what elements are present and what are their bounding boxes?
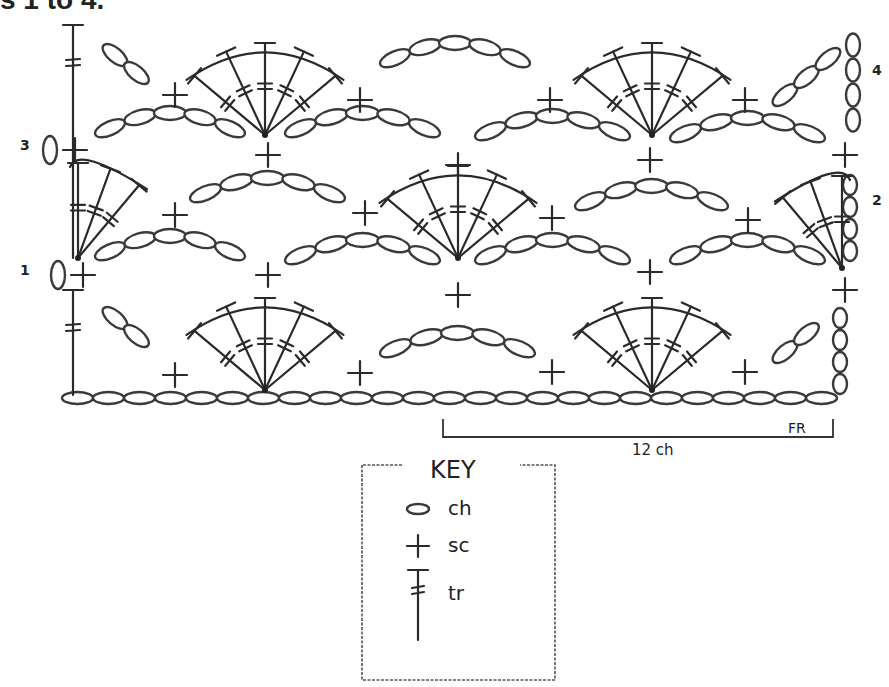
chain-stitch-icon: [731, 233, 764, 247]
key-title: KEY: [430, 456, 476, 484]
chain-stitch-icon: [536, 233, 569, 247]
single-crochet-icon: [638, 148, 662, 172]
chain-stitch-icon: [668, 120, 704, 146]
single-crochet-icon: [163, 203, 187, 227]
chain-stitch-icon: [775, 392, 806, 404]
single-crochet-icon: [638, 260, 662, 284]
chain-stitch-icon: [846, 34, 860, 57]
chain-stitch-icon: [407, 115, 443, 141]
chain-stitch-icon: [310, 392, 341, 404]
chain-stitch-icon: [441, 326, 474, 340]
single-crochet-icon: [256, 143, 280, 167]
single-crochet-icon: [446, 153, 470, 177]
key-legend: KEY ch sc tr: [362, 456, 555, 680]
chain-stitch-icon: [792, 120, 828, 146]
single-crochet-icon: [348, 361, 372, 385]
single-crochet-icon: [833, 143, 857, 167]
chain-stitch-icon: [635, 179, 668, 193]
chain-stitch-icon: [699, 233, 734, 255]
chain-stitch-icon: [183, 106, 218, 128]
chain-stitch-icon: [833, 374, 847, 394]
chain-stitch-icon: [93, 115, 128, 141]
chain-stitch-icon: [833, 330, 847, 350]
chain-stitch-icon: [792, 242, 828, 268]
chain-stitch-icon: [408, 36, 443, 58]
chain-stitch-icon: [761, 111, 796, 133]
chain-stitch-icon: [314, 106, 349, 128]
single-crochet-icon: [163, 363, 187, 387]
treble-fan: [574, 298, 731, 393]
chain-stitch-icon: [597, 118, 633, 144]
chain-stitch-icon: [346, 233, 379, 247]
chain-stitch-icon: [403, 392, 434, 404]
chain-stitch-icon: [833, 308, 847, 328]
chain-stitch-icon: [123, 106, 158, 128]
chain-stitch-icon: [279, 392, 310, 404]
row-number-label: 1: [20, 262, 30, 278]
chain-stitch-icon: [806, 392, 837, 404]
chain-stitch-icon: [434, 392, 465, 404]
chain-stitch-icon: [713, 392, 744, 404]
crochet-chart: s 1 to 4. 1234 12 ch FR KEY ch sc: [0, 0, 889, 687]
treble-post-icon: [63, 25, 83, 135]
chain-stitch-icon: [312, 180, 348, 206]
chain-stitch-icon: [504, 233, 539, 255]
chain-stitch-icon: [213, 238, 248, 264]
chain-stitch-icon: [695, 188, 730, 214]
chain-stitch-icon: [566, 109, 601, 131]
key-chain-symbol-icon: [407, 504, 429, 514]
chain-stitch-icon: [124, 392, 155, 404]
chain-stitch-icon: [213, 115, 248, 141]
treble-post-icon: [63, 290, 83, 395]
chain-stitch-icon: [566, 233, 601, 255]
chain-stitch-icon: [43, 136, 57, 164]
chain-stitch-icon: [465, 392, 496, 404]
single-crochet-icon: [733, 88, 757, 112]
chain-stitch-icon: [183, 229, 218, 251]
chain-stitch-icon: [62, 392, 93, 404]
chain-stitch-icon: [314, 233, 349, 255]
chain-stitch-icon: [251, 171, 284, 185]
key-label-ch: ch: [448, 496, 472, 520]
chain-stitch-icon: [527, 392, 558, 404]
chain-stitch-icon: [846, 109, 860, 132]
chain-stitch-icon: [155, 392, 186, 404]
chain-stitch-icon: [341, 392, 372, 404]
chain-stitch-icon: [283, 115, 319, 141]
chain-stitch-icon: [219, 171, 254, 193]
chain-stitch-icon: [536, 109, 569, 123]
chain-stitch-icon: [668, 242, 704, 268]
chain-stitch-icon: [620, 392, 651, 404]
single-crochet-icon: [446, 283, 470, 307]
chain-stitch-icon: [846, 59, 860, 82]
chain-stitch-icon: [468, 36, 503, 58]
chain-stitch-icon: [120, 321, 152, 351]
chain-stitch-icon: [846, 84, 860, 107]
chain-stitch-icon: [471, 326, 506, 348]
chain-stitch-icon: [573, 188, 608, 214]
chain-stitch-icon: [154, 106, 186, 120]
single-crochet-icon: [163, 83, 187, 107]
row-number-label: 4: [872, 62, 882, 78]
chain-stitch-icon: [665, 179, 700, 201]
chain-stitch-icon: [597, 242, 633, 268]
chain-stitch-icon: [502, 335, 538, 361]
chain-stitch-icon: [154, 229, 186, 243]
chain-stitch-icon: [812, 44, 844, 74]
single-crochet-icon: [733, 360, 757, 384]
chain-stitch-icon: [346, 106, 379, 120]
key-sc-symbol-icon: [407, 535, 429, 557]
single-crochet-icon: [540, 206, 564, 230]
treble-fan: [187, 298, 344, 393]
chain-stitch-icon: [93, 238, 128, 264]
single-crochet-icon: [256, 263, 280, 287]
chain-stitch-icon: [589, 392, 620, 404]
single-crochet-icon: [71, 263, 95, 287]
chain-stitch-icon: [283, 242, 319, 268]
chain-stitch-icon: [120, 58, 152, 88]
foundation-chain: [62, 392, 837, 404]
chain-stitch-icon: [790, 319, 822, 349]
chain-stitch-icon: [376, 106, 411, 128]
repeat-bracket: 12 ch FR: [443, 419, 833, 459]
chain-stitch-icon: [833, 352, 847, 372]
